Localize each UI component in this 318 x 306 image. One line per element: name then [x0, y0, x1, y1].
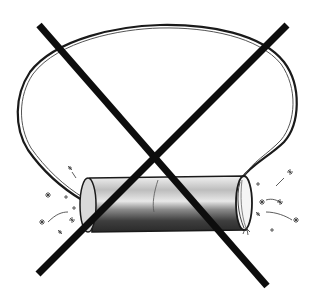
- illustration-canvas: Hand-drawn sketch of a cylindrical objec…: [0, 0, 318, 306]
- sketch-drawing: [0, 0, 318, 306]
- prohibition-x-mark: [38, 25, 287, 286]
